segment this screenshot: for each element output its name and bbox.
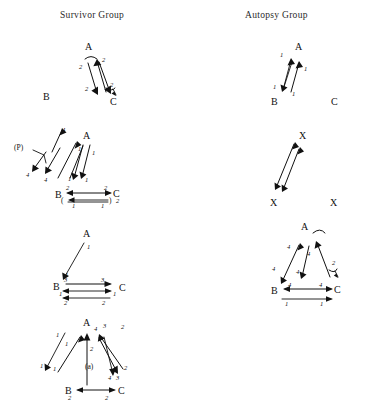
edge-label: 4	[94, 325, 97, 332]
row4-survivor-edges	[0, 0, 375, 413]
edge-label: 1	[65, 340, 68, 347]
edge-label: 1	[40, 362, 43, 369]
edge-label: 3	[103, 322, 106, 329]
edge-label: 2	[68, 394, 71, 401]
edge-label: 2	[121, 323, 124, 330]
edge-label: 1	[56, 331, 59, 338]
edge-label: 2	[124, 364, 127, 371]
edge-label: 1	[53, 365, 56, 372]
edge-label: 3	[116, 374, 119, 381]
edge-label: 4	[108, 374, 111, 381]
edge-label: 2	[105, 394, 108, 401]
edge-label: 2	[90, 345, 93, 352]
figure-canvas: Survivor Group Autopsy Group A B C 2 2 2…	[0, 0, 375, 413]
